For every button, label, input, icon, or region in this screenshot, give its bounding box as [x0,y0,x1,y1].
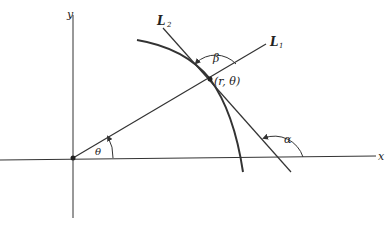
y-axis-label: y [66,8,74,21]
x-axis [0,156,376,160]
x-axis-label: x [378,150,385,163]
polar-tangent-diagram: y x L 2 L 1 (r, θ) θ β α [0,0,391,226]
point-r-theta [208,77,213,82]
origin-point [71,156,76,161]
beta-label: β [212,52,219,65]
point-label: (r, θ) [214,75,240,88]
l2-label: L [156,14,165,28]
diagram-canvas: y x L 2 L 1 (r, θ) θ β α [0,0,391,226]
theta-arc [108,137,113,158]
l1-subscript: 1 [279,42,283,50]
alpha-label: α [284,133,292,146]
l1-label: L [269,35,278,49]
line-l2 [163,28,291,172]
l2-subscript: 2 [166,21,172,29]
theta-label: θ [95,146,101,157]
polar-curve [137,40,243,172]
